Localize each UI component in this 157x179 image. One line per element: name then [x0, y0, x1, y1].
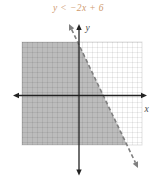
y-axis-label: y	[85, 23, 91, 33]
y-axis-arrow-bottom-icon	[76, 170, 81, 176]
x-axis-label: x	[144, 104, 150, 114]
coordinate-plane: y x	[0, 0, 157, 179]
x-axis-arrow-right-icon	[141, 93, 147, 98]
x-axis-arrow-left-icon	[13, 93, 19, 98]
inequality-graph-figure: y < −2x + 6 y x	[0, 0, 157, 179]
y-axis-arrow-top-icon	[76, 24, 81, 30]
grid-lines	[22, 42, 142, 145]
